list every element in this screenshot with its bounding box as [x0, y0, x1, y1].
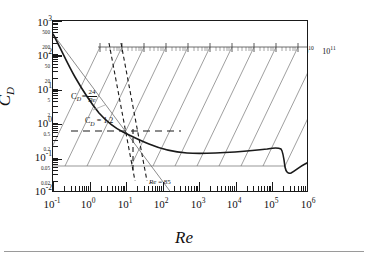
x-tick-minor-400000 [294, 186, 295, 191]
y-axis-minor-20: 20 [10, 79, 50, 84]
x-tick-minor-0.4 [75, 186, 76, 191]
bottom-divider [4, 251, 364, 252]
y-tick-minor-70 [53, 61, 58, 62]
x-axis-label-100000: 105 [251, 197, 291, 210]
y-tick-minor-40 [53, 71, 58, 72]
x-tick-minor-60000 [264, 186, 265, 191]
hatch-line-7 [175, 47, 232, 166]
y-tick-minor-700 [53, 27, 58, 28]
y-tick-minor-500 [53, 32, 58, 33]
x-tick-minor-70000 [267, 186, 268, 191]
hatch-line-3 [87, 47, 144, 166]
x-tick-major-100000 [272, 182, 273, 191]
fstar-major-ticks [100, 43, 298, 52]
x-tick-minor-700 [194, 186, 195, 191]
x-tick-minor-500 [188, 186, 189, 191]
y-tick-minor-0.6 [53, 132, 58, 133]
y-axis-minor-0.5: 0.5 [10, 132, 50, 137]
x-tick-major-1 [90, 182, 91, 191]
x-tick-major-1000 [199, 182, 200, 191]
x-axis-label-10000: 104 [214, 197, 254, 210]
x-tick-minor-300000 [290, 186, 291, 191]
x-tick-minor-400 [185, 186, 186, 191]
x-tick-minor-3 [107, 186, 108, 191]
x-tick-major-100 [163, 182, 164, 191]
x-tick-minor-0.5 [79, 186, 80, 191]
transition-band-group [109, 43, 147, 181]
x-tick-minor-300 [180, 186, 181, 191]
figure-drag-coefficient-chart: 103 102 101 100 10-1 10-2 500 200 50 20 … [0, 0, 368, 258]
x-tick-minor-0.2 [64, 186, 65, 191]
x-tick-minor-70 [157, 186, 158, 191]
y-axis-minor-2: 2 [10, 113, 50, 118]
x-tick-minor-3000 [217, 186, 218, 191]
x-tick-minor-2000 [210, 186, 211, 191]
x-tick-minor-20 [137, 186, 138, 191]
x-tick-minor-200000 [283, 186, 284, 191]
y-tick-minor-8 [53, 93, 58, 94]
x-axis-label-10: 101 [105, 197, 145, 210]
x-tick-minor-20000 [247, 186, 248, 191]
x-axis-label-100: 102 [141, 197, 181, 210]
fstar-minor-ticks [106, 47, 295, 51]
y-tick-minor-4 [53, 106, 58, 107]
x-tick-minor-700000 [303, 186, 304, 191]
y-tick-minor-60 [53, 64, 58, 65]
hatch-line-12 [285, 116, 308, 166]
x-tick-minor-40000 [258, 186, 259, 191]
x-tick-minor-50000 [261, 186, 262, 191]
plot-area: CD = 24Re CD = 1.2 Re = 85 [52, 20, 308, 192]
hatch-line-1 [53, 47, 100, 166]
y-tick-minor-400 [53, 37, 58, 38]
x-tick-minor-40 [148, 186, 149, 191]
hatch-line-11 [263, 70, 308, 166]
x-tick-minor-600 [191, 186, 192, 191]
y-tick-minor-0.3 [53, 146, 58, 147]
y-tick-minor-30 [53, 78, 58, 79]
fstar-label-11: 1011 [314, 46, 344, 56]
y-axis-minor-0.02: 0.02 [10, 181, 50, 186]
x-tick-minor-2 [101, 186, 102, 191]
y-tick-minor-600 [53, 29, 58, 30]
x-tick-minor-6 [118, 186, 119, 191]
hatch-line-4 [109, 47, 166, 166]
x-tick-minor-30000 [253, 186, 254, 191]
y-tick-minor-0.4 [53, 140, 58, 141]
x-tick-minor-500000 [298, 186, 299, 191]
y-tick-minor-0.08 [53, 162, 58, 163]
y-tick-minor-0.8 [53, 128, 58, 129]
x-tick-minor-0.6 [82, 186, 83, 191]
x-axis-title: Re [0, 228, 368, 248]
y-axis-minor-0.05: 0.05 [10, 166, 50, 171]
x-tick-minor-5 [115, 186, 116, 191]
x-tick-minor-600000 [301, 186, 302, 191]
x-tick-minor-30 [144, 186, 145, 191]
y-tick-minor-7 [53, 95, 58, 96]
y-axis-minor-0.2: 0.2 [10, 147, 50, 152]
x-tick-minor-5000 [225, 186, 226, 191]
x-tick-minor-4000 [221, 186, 222, 191]
x-tick-minor-50 [152, 186, 153, 191]
y-tick-minor-0.05 [53, 170, 58, 171]
y-tick-minor-50 [53, 67, 58, 68]
y-axis-title: CD [0, 87, 16, 106]
y-tick-minor-800 [53, 24, 58, 25]
y-axis-minor-200: 200 [10, 45, 50, 50]
y-tick-minor-5 [53, 101, 58, 102]
x-tick-minor-4 [112, 186, 113, 191]
y-tick-minor-0.5 [53, 136, 58, 137]
annotation-re-critical: Re = 85 [149, 178, 171, 186]
y-axis-minor-50: 50 [10, 64, 50, 69]
x-tick-minor-60 [155, 186, 156, 191]
annotation-stokes-law: CD = 24Re [71, 89, 97, 105]
y-tick-minor-0.06 [53, 167, 58, 168]
y-axis-label-1000: 103 [8, 15, 52, 28]
x-tick-major-10 [126, 182, 127, 191]
y-tick-minor-6 [53, 98, 58, 99]
top-divider [4, 2, 364, 3]
annotation-constant-cd: CD = 1.2 [85, 116, 113, 127]
x-tick-minor-7 [121, 186, 122, 191]
y-tick-minor-0.7 [53, 130, 58, 131]
x-axis-label-1000: 103 [178, 197, 218, 210]
x-tick-minor-200 [174, 186, 175, 191]
